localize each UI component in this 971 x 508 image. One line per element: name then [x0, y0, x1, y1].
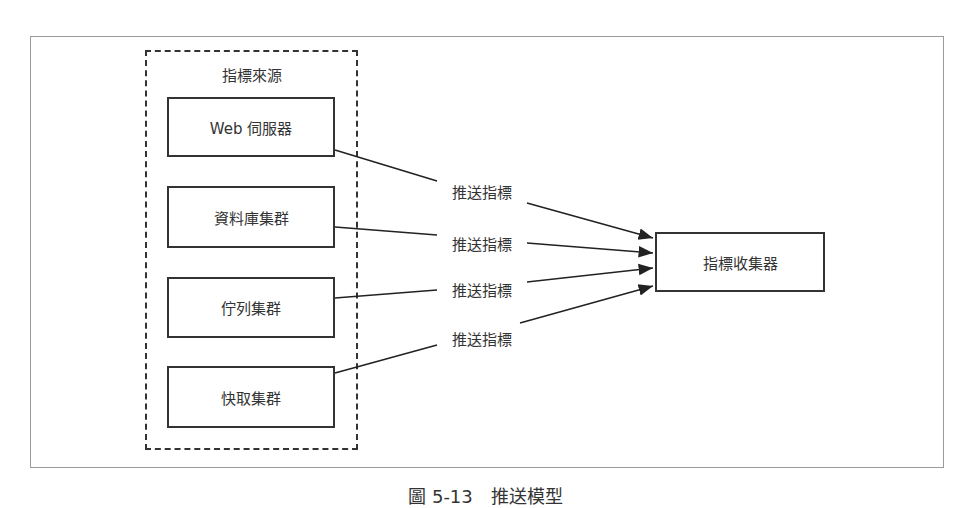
edge-label: 推送指標	[437, 279, 527, 300]
edge-line-1b	[527, 203, 653, 238]
edge-line-4b	[520, 286, 653, 323]
edge-label: 推送指標	[437, 233, 527, 254]
edge-line-1a	[335, 150, 437, 181]
edge-label: 推送指標	[437, 181, 527, 202]
edge-line-2a	[335, 227, 437, 235]
edge-line-3b	[527, 268, 653, 282]
edge-line-3a	[335, 290, 437, 298]
edge-line-2b	[527, 243, 653, 253]
edge-label: 推送指標	[437, 328, 527, 349]
figure-caption: 圖 5-13 推送模型	[0, 482, 971, 508]
edge-line-4a	[335, 345, 437, 373]
